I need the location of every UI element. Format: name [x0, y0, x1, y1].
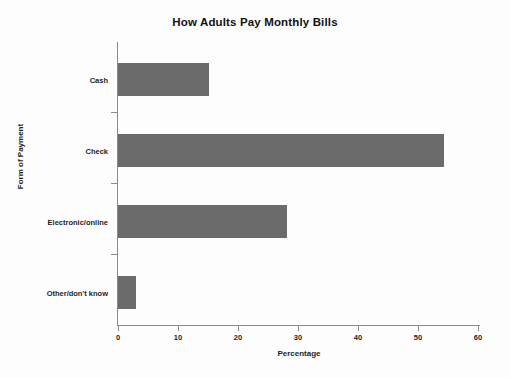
bar-check	[118, 134, 444, 167]
category-label-other-dont-know: Other/don't know	[47, 289, 108, 298]
x-tick-label-50: 50	[406, 333, 430, 342]
x-axis-tick	[358, 326, 359, 331]
x-axis-tick	[178, 326, 179, 331]
bar-electronic-online	[118, 205, 287, 238]
x-axis-title: Percentage	[118, 349, 480, 358]
x-axis-tick	[118, 326, 119, 331]
x-axis-tick	[478, 326, 479, 331]
x-tick-label-10: 10	[166, 333, 190, 342]
plot-area	[118, 42, 480, 325]
x-tick-label-30: 30	[286, 333, 310, 342]
category-label-check: Check	[85, 147, 108, 156]
x-tick-label-40: 40	[346, 333, 370, 342]
bar-chart-figure: How Adults Pay Monthly Bills Form of Pay…	[0, 0, 510, 377]
x-axis-tick	[418, 326, 419, 331]
category-label-cash: Cash	[90, 76, 108, 85]
x-tick-label-60: 60	[466, 333, 490, 342]
x-tick-label-20: 20	[226, 333, 250, 342]
x-axis-tick	[298, 326, 299, 331]
category-label-electronic-online: Electronic/online	[48, 218, 108, 227]
bar-other-dont-know	[118, 276, 136, 309]
x-tick-label-0: 0	[106, 333, 130, 342]
category-labels: Cash Check Electronic/online Other/don't…	[0, 0, 112, 377]
bar-cash	[118, 63, 209, 96]
x-axis-tick	[238, 326, 239, 331]
